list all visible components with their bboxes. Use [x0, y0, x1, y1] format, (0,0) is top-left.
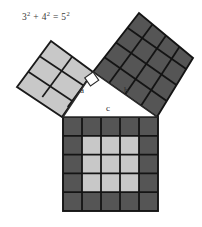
equation-label: 32 + 42 = 52	[22, 12, 70, 22]
pythagorean-diagram: 32 + 42 = 52 a b c	[0, 0, 202, 227]
equation-equals: =	[53, 12, 59, 22]
side-label-a: a	[80, 85, 84, 95]
equation-exp-a: 2	[27, 10, 31, 17]
side-label-c: c	[106, 103, 110, 113]
equation-plus: +	[33, 12, 39, 22]
equation-exp-b: 2	[47, 10, 51, 17]
square-c	[63, 117, 158, 211]
diagram-canvas	[0, 0, 202, 227]
square-c-inner-light-block	[82, 136, 139, 192]
side-label-b: b	[124, 85, 129, 95]
equation-exp-c: 2	[66, 10, 70, 17]
